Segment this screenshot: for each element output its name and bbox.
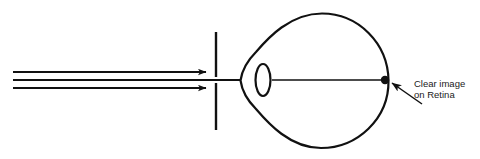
incoming-light-rays — [13, 72, 240, 88]
retina-label-line-1: Clear image — [414, 78, 465, 89]
eye-lens — [256, 64, 271, 96]
diagram-canvas: Clear image on Retina — [0, 0, 480, 159]
retina-label-line-2: on Retina — [414, 89, 455, 100]
focal-point-dot — [381, 76, 389, 84]
eye-ray-diagram: Clear image on Retina — [0, 0, 480, 159]
